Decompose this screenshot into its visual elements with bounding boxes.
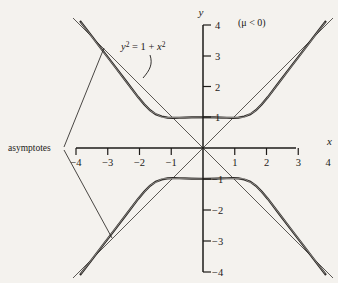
x-tick-label-0: −4 — [70, 157, 82, 168]
equation-operator: = 1 + — [129, 41, 157, 52]
y-tick-label-3: 1 — [215, 112, 220, 123]
figure-background — [0, 0, 338, 283]
x-tick-label-1: −3 — [102, 157, 113, 168]
x-tick-label-4: 1 — [232, 157, 237, 168]
y-tick-label-0: 4 — [215, 20, 221, 31]
y-tick-label-7: −4 — [212, 267, 224, 278]
parameter-condition-label: (μ < 0) — [238, 17, 266, 29]
x-tick-label-5: 2 — [264, 157, 269, 168]
y-tick-label-1: 3 — [215, 51, 220, 62]
x-tick-label-3: −1 — [166, 157, 177, 168]
y-tick-label-6: −3 — [212, 236, 223, 247]
x-tick-label-2: −2 — [134, 157, 145, 168]
equation-exponent-2: 2 — [162, 40, 166, 49]
asymptotes-label: asymptotes — [8, 143, 51, 153]
x-tick-label-6: 3 — [296, 157, 301, 168]
x-axis-label: x — [326, 135, 332, 147]
y-axis-label: y — [198, 6, 204, 18]
y-tick-label-2: 2 — [215, 82, 220, 93]
y-tick-label-4: −1 — [212, 174, 223, 185]
hyperbola-figure: −4 −3 −2 −1 1 2 3 4 4 3 2 1 −1 −2 −3 −4 … — [0, 0, 338, 283]
y-tick-label-5: −2 — [212, 205, 223, 216]
x-tick-label-7: 4 — [325, 157, 331, 168]
